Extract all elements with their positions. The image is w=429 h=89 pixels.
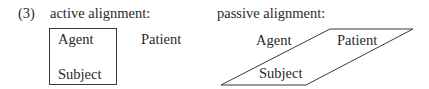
active-patient-label: Patient <box>141 31 181 47</box>
active-subject-label: Subject <box>58 66 102 82</box>
active-alignment-heading: active alignment: <box>50 5 150 21</box>
passive-patient-label: Patient <box>337 32 377 48</box>
passive-alignment-parallelogram <box>221 29 413 85</box>
passive-subject-label: Subject <box>259 65 303 81</box>
passive-alignment-heading: passive alignment: <box>217 5 325 21</box>
example-number: (3) <box>18 5 35 21</box>
active-agent-label: Agent <box>58 31 93 47</box>
passive-agent-label: Agent <box>256 32 291 48</box>
